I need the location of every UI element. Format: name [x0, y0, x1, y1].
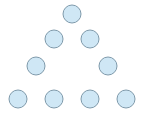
- dot-marker: [45, 90, 63, 108]
- dot-marker: [81, 90, 99, 108]
- dot-marker: [9, 90, 27, 108]
- dot-marker: [45, 30, 63, 48]
- dot-marker: [99, 57, 117, 75]
- dot-figure-container: [0, 0, 144, 118]
- dot-marker: [117, 90, 135, 108]
- dot-marker: [27, 57, 45, 75]
- dot-marker: [81, 30, 99, 48]
- dot-marker: [63, 5, 81, 23]
- dot-chart-canvas: [0, 0, 144, 118]
